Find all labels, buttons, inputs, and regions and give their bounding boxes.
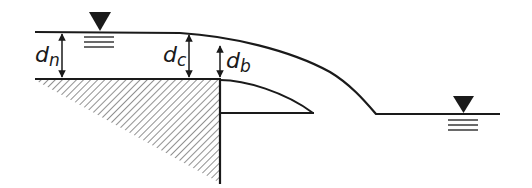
db-label: db — [226, 50, 251, 75]
dc-label-sub: c — [177, 50, 186, 70]
water-level-triangle-icon — [453, 96, 474, 113]
dn-label-base: d — [35, 42, 49, 67]
diagram-svg — [0, 0, 532, 188]
dn-label-sub: n — [49, 50, 60, 70]
lower-nappe — [220, 80, 313, 113]
upstream-water-surface-symbol — [84, 12, 114, 47]
overfall-diagram: dn dc db — [0, 0, 532, 188]
water-level-triangle-icon — [89, 12, 111, 31]
dn-label: dn — [35, 44, 60, 69]
dc-label-base: d — [163, 42, 177, 67]
db-label-sub: b — [240, 56, 251, 76]
channel-bed-hatching — [35, 80, 220, 183]
db-label-base: d — [226, 48, 240, 73]
dc-label: dc — [163, 44, 186, 69]
